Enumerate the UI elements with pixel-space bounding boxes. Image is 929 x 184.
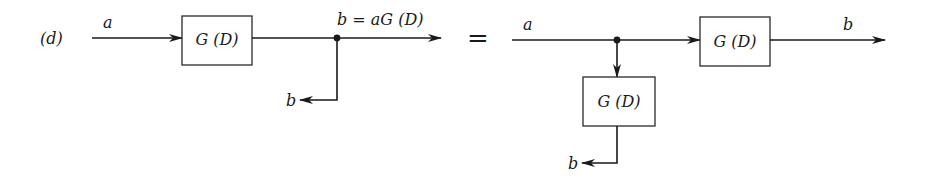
left-input-label: a (103, 13, 113, 32)
right-input-label: a (523, 15, 533, 34)
left-diagram: a G (D) b = aG (D) b (92, 10, 441, 110)
left-branch-label: b (286, 91, 296, 110)
right-output-label: b (843, 15, 853, 34)
left-branch-arrow (300, 38, 337, 100)
left-output-label: b = aG (D) (337, 10, 424, 29)
right-branch-output-arrow (582, 126, 617, 163)
part-label: (d) (40, 29, 63, 48)
equals-sign: = (467, 23, 489, 53)
right-upper-block-label: G (D) (713, 32, 756, 51)
right-lower-block-label: G (D) (597, 92, 640, 111)
block-diagram-equivalence: (d) a G (D) b = aG (D) b = a G (D) b G (0, 0, 929, 184)
right-diagram: a G (D) b G (D) b (512, 15, 885, 173)
right-branch-label: b (568, 154, 578, 173)
left-block-label: G (D) (195, 30, 238, 49)
